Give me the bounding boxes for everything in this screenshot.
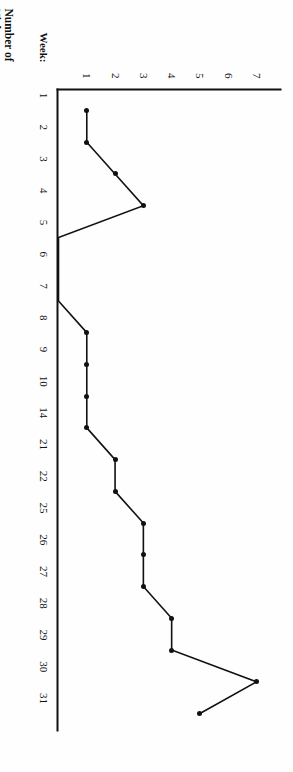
data-point [112, 488, 117, 493]
data-point [197, 711, 202, 716]
rotated-chart-canvas: 12345678910142122252627282930311234567We… [0, 0, 293, 772]
week-tick-label: 10 [37, 366, 48, 396]
data-point [169, 615, 174, 620]
value-tick-label: 2 [109, 50, 120, 78]
value-tick-label: 5 [194, 50, 205, 78]
data-point [112, 457, 117, 462]
week-tick-label: 2 [37, 112, 48, 142]
week-tick-label: 1 [37, 80, 48, 110]
data-point [84, 330, 89, 335]
plot-area: 12345678910142122252627282930311234567We… [0, 0, 293, 772]
week-tick-label: 26 [37, 524, 48, 554]
week-tick-label: 28 [37, 588, 48, 618]
value-axis-line [56, 88, 281, 90]
chart-figure: 12345678910142122252627282930311234567We… [0, 0, 293, 772]
week-tick-label: 7 [37, 270, 48, 300]
week-tick-label: 29 [37, 620, 48, 650]
week-tick-label: 9 [37, 334, 48, 364]
week-tick-label: 14 [37, 397, 48, 427]
week-tick-label: 4 [37, 175, 48, 205]
week-tick-label: 5 [37, 207, 48, 237]
week-tick-label: 6 [37, 239, 48, 269]
value-tick-label: 7 [251, 50, 262, 78]
data-point [140, 520, 145, 525]
data-point [112, 171, 117, 176]
week-axis-caption: Week: [37, 32, 48, 62]
data-point [84, 361, 89, 366]
value-tick-label: 1 [81, 50, 92, 78]
series-polyline [58, 110, 256, 713]
data-point [84, 139, 89, 144]
week-tick-label: 3 [37, 143, 48, 173]
value-axis-title-line: Number of [1, 8, 14, 61]
data-point [84, 425, 89, 430]
data-point [140, 552, 145, 557]
week-tick-label: 25 [37, 493, 48, 523]
week-tick-label: 31 [37, 683, 48, 713]
data-point [254, 679, 259, 684]
value-axis-title: Number ofNightsWithoutValium [0, 8, 14, 61]
data-point [84, 108, 89, 113]
data-point [84, 393, 89, 398]
data-point [169, 647, 174, 652]
value-tick-label: 4 [166, 50, 177, 78]
week-tick-label: 27 [37, 556, 48, 586]
week-tick-label: 8 [37, 302, 48, 332]
week-axis-line [56, 88, 58, 731]
value-tick-label: 3 [137, 50, 148, 78]
data-point [140, 203, 145, 208]
value-tick-label: 6 [222, 50, 233, 78]
week-tick-label: 21 [37, 429, 48, 459]
data-point [140, 584, 145, 589]
week-tick-label: 22 [37, 461, 48, 491]
week-tick-label: 30 [37, 651, 48, 681]
